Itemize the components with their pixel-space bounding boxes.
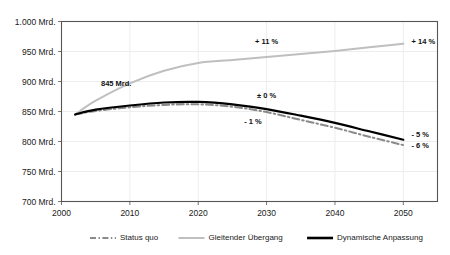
annotations-group: 845 Mrd.+ 11 %+ 14 %± 0 %- 1 %- 5 %- 6 % — [101, 37, 435, 150]
annotation-status-mid: - 1 % — [244, 117, 262, 126]
y-axis-ticks: 700 Mrd.750 Mrd.800 Mrd.850 Mrd.900 Mrd.… — [15, 17, 62, 207]
annotation-gleitend-end: + 14 % — [412, 37, 436, 46]
annotation-dynamisch-mid: ± 0 % — [257, 91, 276, 100]
y-axis-label: 750 Mrd. — [22, 167, 56, 177]
annotation-status-end: - 6 % — [412, 141, 430, 150]
chart-container: 700 Mrd.750 Mrd.800 Mrd.850 Mrd.900 Mrd.… — [0, 0, 450, 255]
annotation-start-value: 845 Mrd. — [101, 79, 131, 88]
line-chart: 700 Mrd.750 Mrd.800 Mrd.850 Mrd.900 Mrd.… — [0, 0, 450, 255]
legend-label-0: Status quo — [120, 233, 159, 242]
legend-label-1: Gleitender Übergang — [209, 233, 283, 242]
y-axis-label: 700 Mrd. — [22, 197, 56, 207]
annotation-dynamisch-end: - 5 % — [412, 130, 430, 139]
gridlines — [62, 22, 438, 202]
x-axis-label: 2050 — [394, 208, 413, 218]
chart-legend: Status quoGleitender ÜbergangDynamische … — [90, 233, 423, 242]
x-axis-label: 2010 — [120, 208, 139, 218]
y-axis-label: 850 Mrd. — [22, 107, 56, 117]
annotation-gleitend-mid: + 11 % — [255, 37, 278, 46]
data-series-group — [75, 44, 403, 145]
y-axis-label: 1.000 Mrd. — [15, 17, 56, 27]
x-axis-label: 2020 — [189, 208, 208, 218]
y-axis-label: 800 Mrd. — [22, 137, 56, 147]
legend-label-2: Dynamische Anpassung — [337, 233, 423, 242]
series-line-0 — [75, 104, 403, 145]
y-axis-label: 950 Mrd. — [22, 47, 56, 57]
y-axis-label: 900 Mrd. — [22, 77, 56, 87]
x-axis-label: 2040 — [325, 208, 344, 218]
x-axis-ticks: 200020102020203020402050 — [52, 202, 413, 218]
x-axis-label: 2000 — [52, 208, 71, 218]
x-axis-label: 2030 — [257, 208, 276, 218]
